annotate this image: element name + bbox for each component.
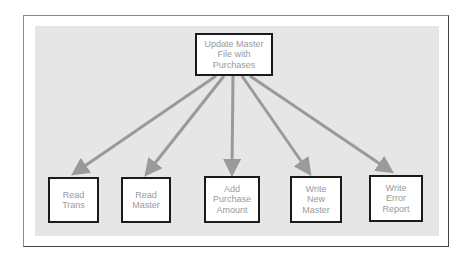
arrow-to-write-new-master xyxy=(242,76,308,171)
module-box-read-master: Read Master xyxy=(121,177,171,223)
module-box-read-trans: Read Trans xyxy=(48,177,99,223)
module-box-write-new-master: Write New Master xyxy=(290,176,342,223)
arrow-to-add-purchase xyxy=(232,76,233,171)
module-box-write-error-report: Write Error Report xyxy=(369,175,423,222)
arrow-to-read-master xyxy=(148,76,224,172)
arrow-to-read-trans xyxy=(76,76,216,172)
module-box-add-purchase-amount: Add Purchase Amount xyxy=(204,176,260,223)
root-module-label: Update Master File with Purchases xyxy=(204,39,263,71)
arrow-to-write-error-report xyxy=(250,76,389,170)
module-label: Write New Master xyxy=(302,184,330,216)
module-label: Read Master xyxy=(132,190,160,211)
root-module-box: Update Master File with Purchases xyxy=(195,33,273,76)
module-label: Add Purchase Amount xyxy=(213,184,251,216)
module-label: Write Error Report xyxy=(382,183,409,215)
module-label: Read Trans xyxy=(62,190,85,211)
